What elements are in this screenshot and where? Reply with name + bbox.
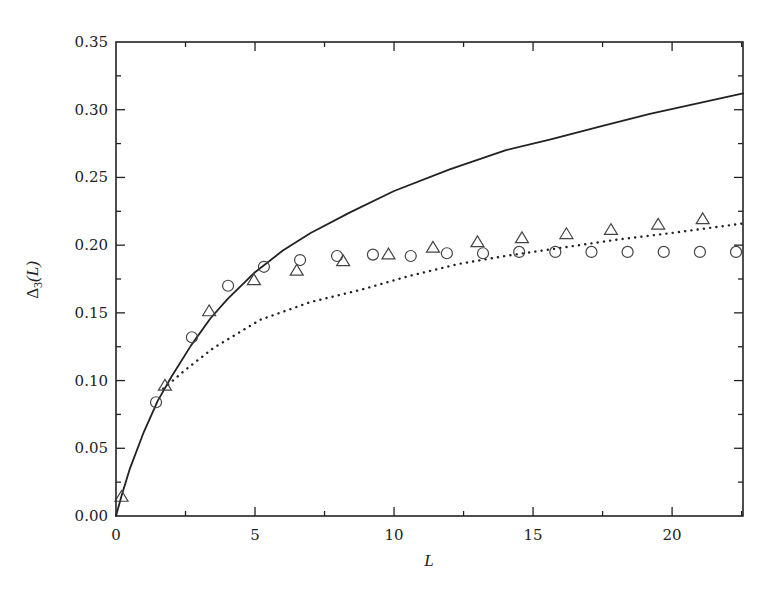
circle-marker: [223, 280, 234, 291]
y-tick-label: 0.20: [75, 236, 108, 254]
dotted-curve: [163, 223, 743, 388]
x-axis-label: L: [423, 551, 433, 570]
triangle-marker: [337, 255, 350, 266]
x-tick-label: 0: [111, 526, 121, 544]
circle-marker: [441, 248, 452, 259]
triangle-marker: [426, 241, 439, 252]
y-tick-label: 0.35: [75, 33, 108, 51]
circle-marker: [258, 261, 269, 272]
circle-marker: [295, 255, 306, 266]
y-label-symbol: Δ: [23, 288, 42, 299]
circle-marker: [332, 250, 343, 261]
y-tick-label: 0.15: [75, 304, 108, 322]
triangle-marker: [652, 218, 665, 229]
svg-text:Δ3(L): Δ3(L): [23, 261, 45, 299]
x-tick-label: 5: [250, 526, 260, 544]
x-tick-label: 15: [524, 526, 543, 544]
triangle-marker: [515, 232, 528, 243]
triangle-marker: [471, 236, 484, 247]
x-tick-label: 20: [663, 526, 682, 544]
circle-marker: [478, 248, 489, 259]
circle-marker: [514, 246, 525, 257]
x-tick-label: 10: [385, 526, 404, 544]
chart: 051015200.000.050.100.150.200.250.300.35…: [0, 0, 779, 596]
dotted-curve-line: [163, 223, 743, 388]
circle-marker: [731, 246, 742, 257]
circle-marker: [550, 246, 561, 257]
y-tick-label: 0.10: [75, 372, 108, 390]
circle-marker: [586, 246, 597, 257]
triangle-marker: [696, 213, 709, 224]
circle-marker: [367, 249, 378, 260]
circle-marker: [622, 246, 633, 257]
solid-curve: [116, 93, 743, 516]
y-tick-label: 0.00: [75, 507, 108, 525]
axes-layer: 051015200.000.050.100.150.200.250.300.35: [75, 33, 743, 544]
triangles: [115, 213, 709, 501]
y-axis-label: Δ3(L): [23, 261, 45, 299]
y-tick-label: 0.05: [75, 439, 108, 457]
triangle-marker: [560, 228, 573, 239]
circle-marker: [405, 250, 416, 261]
circle-marker: [694, 246, 705, 257]
solid-curve-line: [116, 93, 743, 516]
triangle-marker: [382, 248, 395, 259]
y-tick-label: 0.30: [75, 101, 108, 119]
circle-marker: [658, 246, 669, 257]
y-tick-label: 0.25: [75, 168, 108, 186]
series-layer: [115, 93, 743, 516]
triangle-marker: [604, 224, 617, 235]
y-label-arg: (L): [23, 261, 42, 282]
circle-marker: [186, 332, 197, 343]
triangle-marker: [247, 274, 260, 285]
circles: [151, 246, 742, 407]
